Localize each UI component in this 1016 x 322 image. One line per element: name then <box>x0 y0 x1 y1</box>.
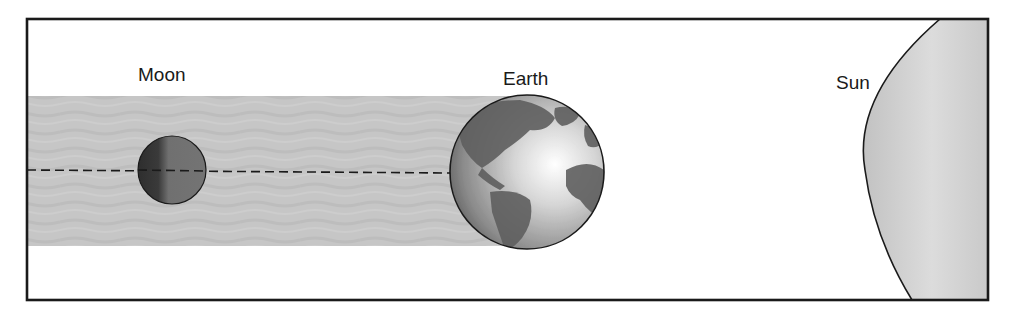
earth-label: Earth <box>503 68 548 90</box>
eclipse-diagram: Moon Earth Sun <box>0 0 1016 322</box>
sun-label: Sun <box>836 72 870 94</box>
moon <box>138 136 206 204</box>
sun <box>863 19 988 300</box>
earth <box>450 95 604 250</box>
moon-label: Moon <box>138 64 186 86</box>
diagram-canvas <box>0 0 1016 322</box>
